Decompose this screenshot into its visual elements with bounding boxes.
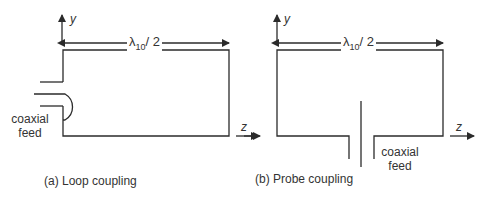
feed-label-line2-a: feed [10, 126, 50, 140]
coaxial-feed-label-b: coaxial feed [378, 145, 422, 173]
caption-b: (b) Probe coupling [255, 172, 353, 186]
lambda-subscript-a: 10 [136, 42, 146, 52]
feed-label-line1-a: coaxial [10, 112, 50, 126]
dimension-suffix-b: / 2 [360, 34, 374, 49]
dimension-label-b: λ10/ 2 [341, 35, 376, 54]
cavity-outline-b [277, 50, 443, 159]
y-axis-label-a: y [70, 12, 76, 26]
feed-label-line2-b: feed [378, 159, 422, 173]
z-axis-label-b: z [456, 120, 462, 134]
dimension-label-a: λ10/ 2 [127, 35, 162, 54]
feed-label-line1-b: coaxial [378, 145, 422, 159]
dimension-suffix-a: / 2 [146, 34, 160, 49]
lambda-subscript-b: 10 [350, 42, 360, 52]
coaxial-feed-label-a: coaxial feed [10, 112, 50, 140]
z-axis-label-a: z [241, 120, 247, 134]
cavity-outline-a [63, 50, 229, 136]
caption-a: (a) Loop coupling [44, 174, 137, 188]
y-axis-label-b: y [284, 12, 290, 26]
